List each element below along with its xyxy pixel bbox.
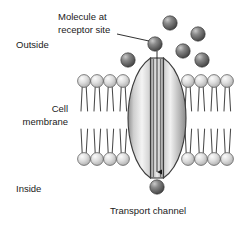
label-molecule-receptor-line1: Molecule at (58, 11, 107, 22)
label-inside: Inside (16, 183, 41, 194)
label-transport-channel: Transport channel (110, 205, 186, 216)
molecule-free-1 (163, 16, 177, 30)
molecule-free-4 (195, 53, 209, 67)
label-outside: Outside (16, 39, 49, 50)
label-cell-membrane-line2: membrane (23, 116, 68, 127)
label-molecule-receptor-line2: receptor site (58, 24, 110, 35)
molecule-free-5 (121, 53, 135, 67)
molecule-transported-inside (150, 180, 164, 194)
molecule-receptor-site (148, 37, 162, 51)
label-cell-membrane-line1: Cell (52, 103, 68, 114)
cell-membrane-transport-diagram: Molecule at receptor site Outside Cell m… (0, 0, 251, 225)
molecule-free-2 (191, 27, 205, 41)
molecule-free-3 (176, 44, 190, 58)
